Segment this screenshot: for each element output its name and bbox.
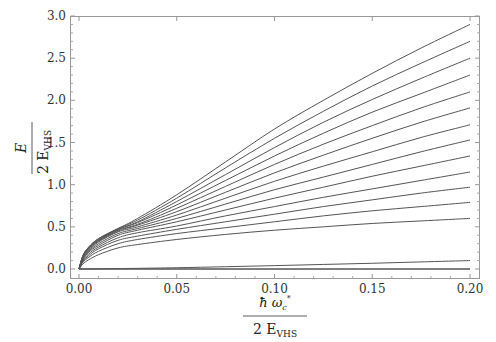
x-label-numerator: ħ ωc* [259, 294, 291, 312]
energy-curve [79, 261, 470, 269]
x-tick-label: 0.10 [261, 282, 288, 296]
y-label-numerator: E [13, 143, 29, 154]
y-tick-label: 3.0 [47, 9, 66, 23]
energy-curve [79, 218, 470, 269]
energy-levels-chart: 0.000.050.100.150.20 0.00.51.01.52.02.53… [0, 0, 496, 342]
y-tick-label: 0.0 [47, 262, 66, 276]
y-label-denominator: 2 EVHS [35, 130, 53, 174]
y-axis-label: E 2 EVHS [13, 122, 53, 174]
y-tick-label: 2.0 [47, 93, 66, 107]
energy-curve [79, 41, 470, 269]
energy-curve [79, 140, 470, 269]
x-axis-label: ħ ωc* 2 EVHS [243, 294, 307, 339]
x-tick-label: 0.20 [457, 282, 484, 296]
curves-group [79, 24, 470, 269]
energy-curve [79, 92, 470, 269]
x-label-denominator: 2 EVHS [253, 321, 297, 339]
energy-curve [79, 58, 470, 269]
x-tick-label: 0.05 [163, 282, 190, 296]
x-tick-label: 0.15 [359, 282, 386, 296]
y-tick-label: 0.5 [47, 220, 66, 234]
y-tick-label: 1.0 [47, 178, 66, 192]
energy-curve [79, 125, 470, 269]
x-tick-label: 0.00 [66, 282, 93, 296]
y-tick-label: 2.5 [47, 51, 66, 65]
